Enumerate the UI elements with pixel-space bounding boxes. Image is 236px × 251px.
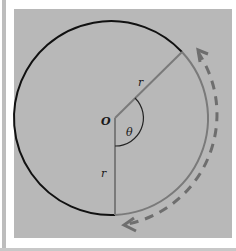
origin-label: O	[101, 115, 111, 128]
arrowhead-top-icon	[198, 50, 208, 62]
radius-lower-label: r	[101, 167, 107, 180]
radius-upper-label: r	[138, 76, 144, 89]
angle-theta-label: θ	[126, 126, 133, 139]
radius-upper-line	[115, 52, 182, 118]
circle-black-arc	[14, 21, 182, 215]
circle-diagram: O r r θ	[0, 0, 236, 251]
